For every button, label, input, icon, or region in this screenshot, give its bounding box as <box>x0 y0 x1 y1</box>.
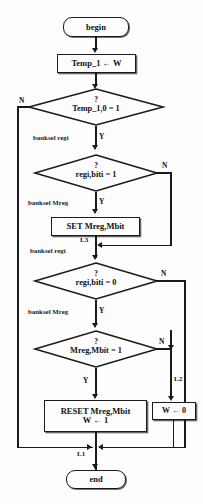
annotation-banksel-mreg-1: banksel Mreg <box>28 199 68 206</box>
decision-regi0-label: regi,biti = 0 <box>34 278 158 287</box>
decision-mreg-question: ? <box>34 337 158 346</box>
node-w-zero-label: W ← 0 <box>162 407 186 415</box>
node-reset-mreg-line2: W ← 1 <box>83 416 108 425</box>
edge-d3-y-vertical <box>95 300 97 325</box>
edge-d4-y-vertical <box>95 368 97 396</box>
arrowhead-l1-to-end <box>92 464 98 469</box>
arrowhead-d3-n-merge <box>98 444 103 450</box>
node-decision-mreg: ? Mreg,Mbit = 1 <box>34 330 158 368</box>
node-temp-assign-label: Temp_1 ← W <box>71 59 121 68</box>
node-decision-regi1: ? regi,biti = 1 <box>34 154 158 192</box>
branch-label-n1: N <box>19 96 24 105</box>
arrowhead-d2-n-l3 <box>97 242 102 248</box>
jump-label-l3: L3 <box>80 236 88 244</box>
decision-regi0-question: ? <box>34 269 158 278</box>
decision-regi1-question: ? <box>34 161 158 170</box>
node-reset-mreg: RESET Mreg,Mbit W ← 1 <box>44 400 147 432</box>
branch-label-y3: Y <box>99 306 104 315</box>
arrowhead-d2-y <box>92 209 98 214</box>
branch-label-n2: N <box>162 161 167 170</box>
decision-regi1-label: regi,biti = 1 <box>34 170 158 179</box>
annotation-banksel-regi-1: banksel regi <box>33 134 69 141</box>
edge-d1-n-vertical <box>17 106 19 448</box>
edge-d2-n-vertical <box>170 172 172 246</box>
arrowhead-set-to-d3 <box>92 255 98 260</box>
node-end-label: end <box>89 475 102 484</box>
arrowhead-l2-top <box>168 345 174 350</box>
edge-l2-vertical <box>170 330 172 398</box>
arrowhead-d4-y <box>92 394 98 399</box>
node-w-zero: W ← 0 <box>152 402 196 420</box>
node-temp-assign: Temp_1 ← W <box>57 54 136 73</box>
node-set-mreg-label: SET Mreg,Mbit <box>67 222 125 231</box>
arrowhead-d3-y <box>92 323 98 328</box>
arrowhead-begin-to-temp <box>92 48 98 53</box>
annotation-banksel-regi-2: banksel regi <box>30 247 66 254</box>
branch-label-y1: Y <box>99 132 104 141</box>
arrowhead-l2-to-wzero <box>168 396 174 401</box>
decision-mreg-label: Mreg,Mbit = 1 <box>34 346 158 355</box>
node-set-mreg: SET Mreg,Mbit <box>51 217 140 236</box>
node-begin: begin <box>63 17 129 37</box>
jump-label-l2: L2 <box>174 375 182 383</box>
decision-temp-question: ? <box>28 95 164 104</box>
edge-d1-y-vertical <box>95 126 97 147</box>
node-decision-regi0: ? regi,biti = 0 <box>34 262 158 300</box>
edge-d2-n-to-l3 <box>99 245 172 247</box>
branch-label-y4: Y <box>83 376 88 385</box>
decision-temp-label: Temp_1,0 = 1 <box>28 104 164 113</box>
branch-label-n3: N <box>161 269 166 278</box>
flowchart-canvas: begin Temp_1 ← W ? Temp_1,0 = 1 N Y bank… <box>0 0 203 504</box>
edge-d1-n-to-merge <box>17 447 93 449</box>
branch-label-n4: N <box>159 337 164 346</box>
annotation-banksel-mreg-2: banksel Mreg <box>28 308 68 315</box>
node-begin-label: begin <box>86 23 106 32</box>
jump-label-l1: L1 <box>77 450 85 458</box>
edge-d3-n-horizontal <box>156 280 186 282</box>
node-end: end <box>66 470 126 489</box>
edge-wzero-down <box>173 420 175 447</box>
node-decision-temp: ? Temp_1,0 = 1 <box>28 88 164 126</box>
branch-label-y2: Y <box>99 197 104 206</box>
arrowhead-d1-n-merge <box>87 444 92 450</box>
edge-d3-n-vertical <box>184 280 186 447</box>
arrowhead-d1-y <box>92 145 98 150</box>
